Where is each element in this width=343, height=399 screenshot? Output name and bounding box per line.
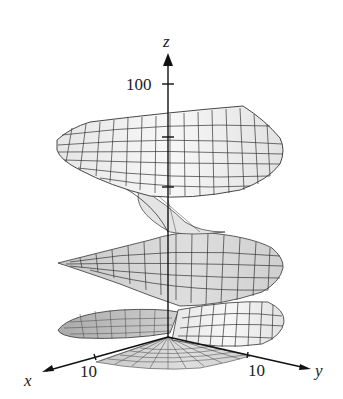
y-axis-label: y: [313, 361, 323, 380]
upper-lobe-surface: [57, 106, 283, 197]
x-tick-10: [94, 354, 96, 360]
helix-surface-plot: z 100 x 10 y 10: [0, 0, 343, 399]
z-axis-label: z: [162, 32, 170, 51]
x-axis-arrow-icon: [42, 365, 54, 372]
y-axis-arrow-icon: [299, 364, 311, 370]
z-axis-arrow-icon: [163, 53, 173, 66]
z-tick-label-100: 100: [126, 75, 152, 94]
x-axis-label: x: [23, 371, 32, 390]
x-tick-label-10: 10: [80, 362, 97, 381]
y-tick-label-10: 10: [248, 361, 265, 380]
middle-lobe-surface: [58, 232, 283, 306]
y-tick-10: [247, 352, 248, 358]
